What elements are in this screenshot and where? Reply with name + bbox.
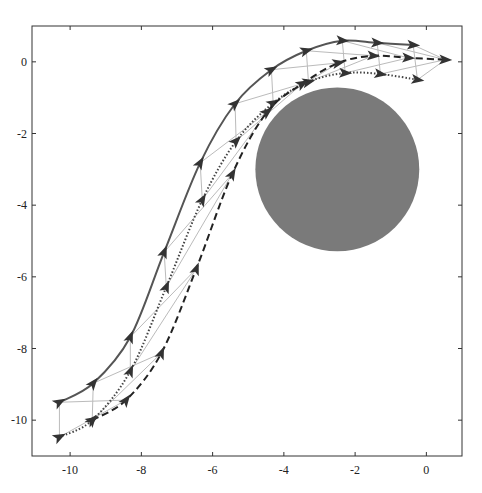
obstacle-circle bbox=[255, 87, 419, 251]
x-tick-label: -6 bbox=[208, 463, 218, 477]
formation-trajectory-chart: -10-8-6-4-20 0-2-4-6-8-10 bbox=[0, 0, 482, 493]
y-tick-label: 0 bbox=[21, 55, 27, 69]
y-tick-label: -4 bbox=[17, 198, 27, 212]
y-tick-label: -10 bbox=[11, 413, 27, 427]
y-tick-label: -2 bbox=[17, 127, 27, 141]
y-tick-label: -8 bbox=[17, 342, 27, 356]
x-tick-label: -10 bbox=[62, 463, 78, 477]
x-tick-label: 0 bbox=[423, 463, 429, 477]
x-tick-label: -4 bbox=[279, 463, 289, 477]
x-tick-label: -2 bbox=[350, 463, 360, 477]
y-tick-label: -6 bbox=[17, 270, 27, 284]
x-tick-label: -8 bbox=[136, 463, 146, 477]
